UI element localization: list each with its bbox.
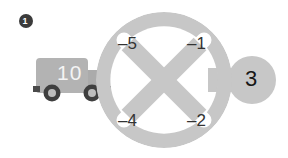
wheel-quadrant-label-bottom-right: –2 bbox=[187, 112, 206, 129]
wheel-quadrant-label-top-left: –5 bbox=[118, 35, 137, 52]
truck-rear-hub bbox=[48, 89, 56, 97]
truck-front-hub bbox=[88, 89, 96, 97]
wheel-circle-node-shape bbox=[96, 12, 232, 148]
truck-rear-bumper bbox=[33, 86, 40, 92]
illustration-canvas: 1 10 –5 –1 –4 –2 3 bbox=[0, 0, 288, 158]
wheel-quadrant-label-top-right: –1 bbox=[187, 35, 206, 52]
truck-number-text: 10 bbox=[57, 62, 82, 83]
item-number-bullet-text: 1 bbox=[23, 17, 28, 26]
wheel-quadrant-label-bottom-left: –4 bbox=[118, 112, 137, 129]
side-circle-node-text: 3 bbox=[245, 68, 257, 90]
